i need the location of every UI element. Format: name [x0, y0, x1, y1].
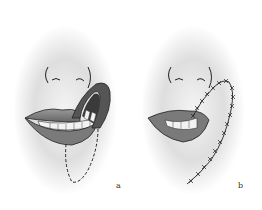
- panel-label: a: [116, 181, 121, 190]
- illustration-b: [131, 0, 262, 210]
- panel-a: a: [0, 0, 131, 210]
- panel-b: b: [131, 0, 262, 210]
- face-shading: [141, 25, 245, 195]
- illustration-a: [0, 0, 131, 210]
- panel-label: b: [238, 181, 243, 190]
